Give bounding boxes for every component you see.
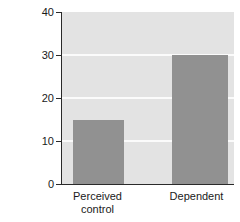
x-category-label-perceived-control: Perceived control bbox=[60, 190, 135, 216]
y-tick-label-30: 30 bbox=[24, 50, 54, 61]
bar-dependent bbox=[172, 55, 228, 184]
plot-area bbox=[62, 12, 234, 184]
y-tick-label-20: 20 bbox=[24, 93, 54, 104]
y-tick-label-40: 40 bbox=[24, 7, 54, 18]
y-axis-tick-labels: 40 30 20 10 0 bbox=[24, 0, 54, 222]
bar-perceived-control bbox=[73, 120, 124, 185]
x-category-label-line-1: Perceived bbox=[60, 190, 135, 203]
x-category-label-line-1: Dependent bbox=[159, 190, 234, 203]
y-tick-label-0: 0 bbox=[24, 179, 54, 190]
x-category-label-line-2: control bbox=[60, 203, 135, 216]
x-axis-line bbox=[61, 184, 234, 185]
x-category-label-dependent: Dependent bbox=[159, 190, 234, 203]
y-tick-label-10: 10 bbox=[24, 136, 54, 147]
bar-chart-figure: Percentage of residents who had died 18 … bbox=[0, 0, 240, 222]
